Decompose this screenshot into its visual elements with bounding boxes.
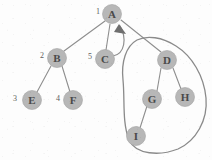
figure-canvas: A 1 B 2 C 5 D E 3 F 4 G [0, 0, 212, 160]
node-e-label: E [28, 94, 35, 106]
node-c-label: C [101, 53, 109, 65]
edge-d-h [173, 68, 181, 89]
edge-b-e [37, 66, 51, 92]
node-g[interactable]: G [143, 90, 162, 109]
node-d-label: D [163, 54, 171, 66]
edge-b-f [62, 66, 70, 92]
node-f-label: F [70, 94, 77, 106]
edge-a-d [121, 20, 161, 52]
node-i[interactable]: I [127, 127, 146, 146]
node-h[interactable]: H [176, 88, 195, 107]
node-d[interactable]: D [158, 51, 177, 70]
order-label-e: 3 [13, 94, 17, 103]
node-a-label: A [108, 8, 116, 20]
tree-diagram-svg: A 1 B 2 C 5 D E 3 F 4 G [0, 0, 212, 160]
node-h-label: H [181, 91, 190, 103]
node-e[interactable]: E [23, 91, 42, 110]
order-label-f: 4 [56, 94, 60, 103]
edge-d-g [157, 68, 161, 91]
edge-g-i [140, 106, 147, 128]
node-g-label: G [148, 93, 157, 105]
order-label-a: 1 [96, 7, 100, 16]
order-label-c: 5 [88, 52, 92, 61]
back-edge-arrowhead-icon [114, 24, 126, 34]
order-label-b: 2 [40, 51, 44, 60]
node-i-label: I [134, 130, 138, 142]
node-b-label: B [53, 52, 61, 64]
node-c[interactable]: C [96, 50, 115, 69]
edge-a-c [106, 24, 110, 50]
node-b[interactable]: B [48, 49, 67, 68]
node-f[interactable]: F [64, 91, 83, 110]
node-a[interactable]: A [103, 5, 122, 24]
edge-a-b [64, 21, 105, 51]
